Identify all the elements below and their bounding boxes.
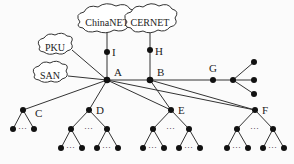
svg-text:···: ··· bbox=[250, 123, 259, 133]
cloud-pku: PKU bbox=[38, 33, 72, 54]
node-d bbox=[86, 107, 92, 113]
cloud-san: SAN bbox=[33, 61, 67, 82]
svg-text:···: ··· bbox=[148, 142, 157, 152]
node-g bbox=[210, 77, 216, 83]
svg-text:···: ··· bbox=[232, 142, 241, 152]
svg-text:A: A bbox=[114, 66, 122, 78]
svg-text:PKU: PKU bbox=[45, 42, 66, 53]
svg-text:···: ··· bbox=[184, 142, 193, 152]
cloud-cernet: CERNET bbox=[125, 4, 177, 33]
node-c bbox=[20, 107, 26, 113]
svg-text:I: I bbox=[112, 46, 116, 58]
svg-text:···: ··· bbox=[268, 142, 277, 152]
node-a bbox=[104, 77, 111, 84]
svg-text:···: ··· bbox=[102, 142, 111, 152]
svg-text:···: ··· bbox=[66, 142, 75, 152]
svg-text:E: E bbox=[178, 104, 185, 116]
svg-text:C: C bbox=[35, 107, 42, 119]
node-e bbox=[168, 107, 174, 113]
node-h bbox=[147, 47, 153, 53]
svg-text:···: ··· bbox=[18, 123, 27, 133]
svg-text:···: ··· bbox=[84, 123, 93, 133]
svg-text:SAN: SAN bbox=[40, 70, 60, 81]
node-f bbox=[252, 107, 258, 113]
svg-text:···: ··· bbox=[166, 123, 175, 133]
svg-text:B: B bbox=[157, 66, 164, 78]
node-i bbox=[104, 49, 110, 55]
svg-text:H: H bbox=[155, 45, 163, 57]
svg-text:D: D bbox=[96, 104, 104, 116]
node-g-hub bbox=[230, 77, 236, 83]
svg-text:F: F bbox=[262, 104, 268, 116]
svg-text:G: G bbox=[209, 62, 217, 74]
svg-text:CERNET: CERNET bbox=[131, 17, 170, 28]
network-topology-diagram: ChinaNET CERNET PKU SAN I bbox=[0, 0, 294, 164]
node-b bbox=[147, 77, 154, 84]
svg-text:ChinaNET: ChinaNET bbox=[85, 17, 128, 28]
